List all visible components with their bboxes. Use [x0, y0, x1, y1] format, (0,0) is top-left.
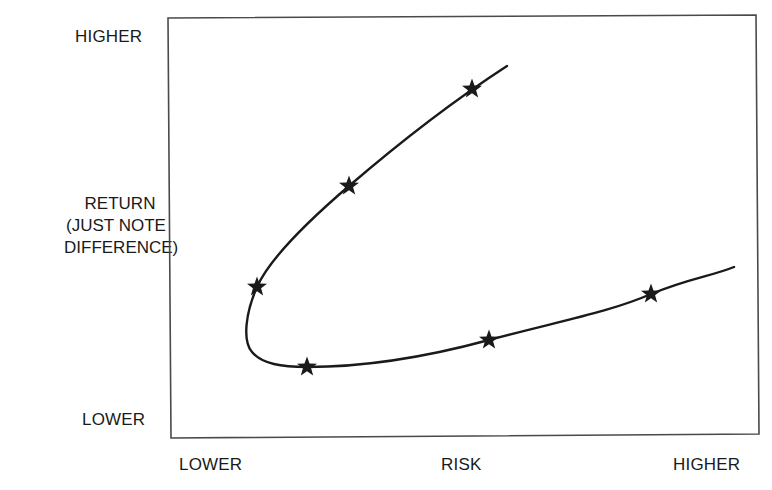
star-marker-icon	[479, 330, 499, 349]
star-marker-icon	[641, 284, 661, 303]
star-marker-icon	[297, 357, 317, 376]
plot-frame	[168, 15, 759, 438]
star-marker-icon	[247, 277, 267, 296]
data-point-markers	[247, 79, 661, 376]
frontier-curve	[246, 66, 734, 367]
risk-return-plot	[0, 0, 772, 490]
